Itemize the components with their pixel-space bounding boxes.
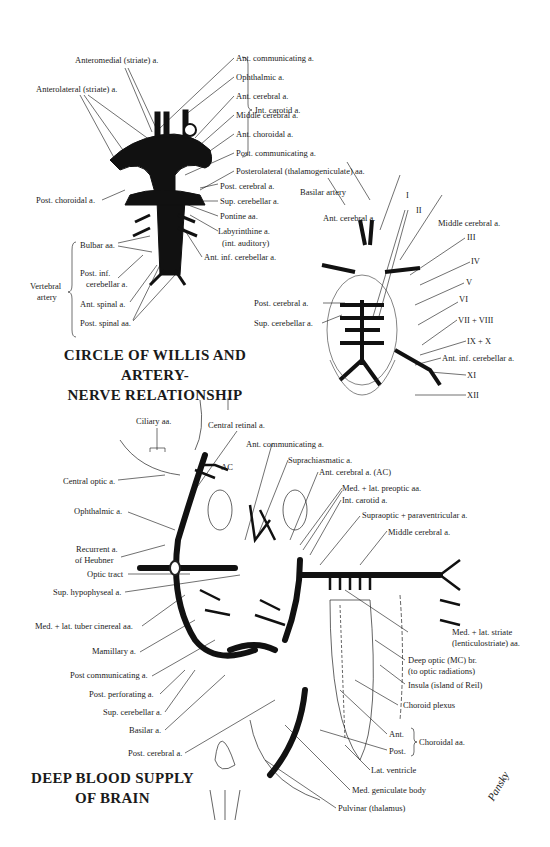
- label-post-communicating: Post. communicating a.: [236, 148, 316, 158]
- label-post-cerebral: Post. cerebral a.: [128, 748, 182, 758]
- label-lenticulostriate: (lenticulostriate) aa.: [452, 638, 520, 648]
- label-basilar-artery: Basilar artery: [300, 187, 346, 197]
- label-optic-radiations: (to optic radiations): [408, 666, 475, 676]
- label-heubner: of Heubner: [75, 555, 113, 565]
- title-line-1: CIRCLE OF WILLIS AND ARTERY-: [30, 345, 280, 385]
- label-nerve-IX-X: IX + X: [467, 336, 491, 346]
- label-sup-cerebellar: Sup. cerebellar a.: [220, 196, 279, 206]
- title-deep-blood-supply: DEEP BLOOD SUPPLY OF BRAIN: [25, 768, 200, 808]
- label-int-carotid: Int. carotid a.: [255, 105, 300, 115]
- label-choroidal-aa: Choroidal aa.: [419, 737, 465, 747]
- label-pontine: Pontine aa.: [220, 211, 258, 221]
- title-line-1: DEEP BLOOD SUPPLY: [25, 768, 200, 788]
- label-med-geniculate: Med. geniculate body: [352, 785, 426, 795]
- label-nerve-VI: VI: [459, 294, 468, 304]
- label-basilar: Basilar a.: [129, 725, 161, 735]
- label-anteromedial-striate: Anteromedial (striate) a.: [75, 55, 158, 65]
- label-post-cerebral: Post. cerebral a.: [220, 181, 274, 191]
- label-vertebral: Vertebral: [30, 281, 61, 291]
- label-post-communicating: Post communicating a.: [70, 670, 148, 680]
- label-sup-cerebellar: Sup. cerebellar a.: [254, 318, 313, 328]
- label-ant-choroidal: Ant. choroidal a.: [236, 129, 293, 139]
- label-lat-ventricle: Lat. ventricle: [371, 765, 416, 775]
- label-post-cerebral: Post. cerebral a.: [254, 298, 308, 308]
- label-nerve-XII: XII: [467, 390, 479, 400]
- label-optic-tract: Optic tract: [87, 569, 123, 579]
- label-ant-communicating: Ant. communicating a.: [236, 53, 314, 63]
- label-bulbar: Bulbar aa.: [80, 240, 115, 250]
- label-ant-cerebral: Ant. cerebral a.: [236, 91, 288, 101]
- label-choroidal-ant: Ant.: [389, 729, 404, 739]
- label-labyrinthine-sub: (int. auditory): [222, 238, 269, 248]
- label-choroidal-post: Post.: [389, 746, 406, 756]
- title-circle-of-willis: CIRCLE OF WILLIS AND ARTERY- NERVE RELAT…: [30, 345, 280, 405]
- label-ophthalmic: Ophthalmic a.: [236, 72, 284, 82]
- label-labyrinthine: Labyrinthine a.: [218, 226, 270, 236]
- label-ant-cerebral: Ant. cerebral a.: [323, 213, 375, 223]
- label-ant-spinal: Ant. spinal a.: [80, 299, 125, 309]
- label-nerve-III: III: [467, 232, 476, 242]
- title-line-2: OF BRAIN: [25, 788, 200, 808]
- label-insula: Insula (island of Reil): [408, 680, 482, 690]
- label-striate: Med. + lat. striate: [452, 627, 512, 637]
- label-tuber-cinereal: Med. + lat. tuber cinereal aa.: [35, 621, 133, 631]
- label-nerve-IV: IV: [471, 256, 480, 266]
- label-posterolateral: Posterolateral (thalamogeniculate) aa.: [236, 166, 365, 176]
- label-middle-cerebral: Middle cerebral a.: [438, 218, 500, 228]
- label-ant-inf-cerebellar: Ant. inf. cerebellar a.: [442, 353, 514, 363]
- label-post-inf-cerebellar-sub: cerebellar a.: [86, 279, 128, 289]
- label-med-lat-preoptic: Med. + lat. preoptic aa.: [342, 483, 421, 493]
- label-ant-cerebral-ac: Ant. cerebral a. (AC): [319, 467, 391, 477]
- label-post-perforating: Post. perforating a.: [89, 689, 154, 699]
- label-post-spinal: Post. spinal aa.: [80, 318, 131, 328]
- label-nerve-XI: XI: [467, 370, 476, 380]
- label-supraoptic: Supraoptic + paraventricular a.: [362, 510, 467, 520]
- label-vertebral-artery: artery: [37, 292, 57, 302]
- label-sup-hypophyseal: Sup. hypophyseal a.: [53, 587, 121, 597]
- label-nerve-VII-VIII: VII + VIII: [458, 315, 493, 325]
- label-deep-optic: Deep optic (MC) br.: [408, 655, 477, 665]
- label-ant-inf-cerebellar: Ant. inf. cerebellar a.: [204, 252, 276, 262]
- label-post-choroidal: Post. choroidal a.: [36, 195, 95, 205]
- label-central-retinal: Central retinal a.: [208, 420, 265, 430]
- label-ant-communicating: Ant. communicating a.: [246, 439, 324, 449]
- label-int-carotid: Int. carotid a.: [342, 495, 387, 505]
- label-mamillary: Mamillary a.: [92, 646, 136, 656]
- label-sup-cerebellar: Sup. cerebellar a.: [103, 707, 162, 717]
- label-nerve-II: II: [416, 205, 422, 215]
- title-line-2: NERVE RELATIONSHIP: [30, 385, 280, 405]
- label-post-inf-cerebellar: Post. inf.: [80, 268, 110, 278]
- label-suprachiasmatic: Suprachiasmatic a.: [288, 455, 352, 465]
- label-ac: AC: [221, 462, 233, 472]
- label-nerve-V: V: [466, 277, 472, 287]
- label-choroid-plexus: Choroid plexus: [403, 700, 455, 710]
- label-pulvinar: Pulvinar (thalamus): [338, 803, 405, 813]
- label-anterolateral-striate: Anterolateral (striate) a.: [36, 84, 117, 94]
- label-recurrent: Recurrent a.: [76, 544, 118, 554]
- label-nerve-I: I: [406, 190, 409, 200]
- label-middle-cerebral: Middle cerebral a.: [388, 527, 450, 537]
- anatomical-drawings: [0, 0, 550, 847]
- label-ophthalmic: Ophthalmic a.: [74, 506, 122, 516]
- label-ciliary: Ciliary aa.: [136, 416, 171, 426]
- label-central-optic: Central optic a.: [63, 476, 115, 486]
